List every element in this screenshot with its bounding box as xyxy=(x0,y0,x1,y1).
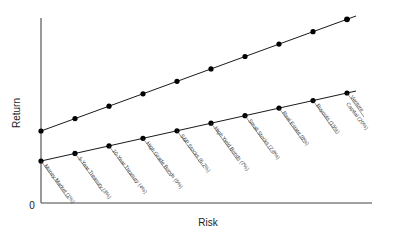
data-point xyxy=(174,128,179,133)
risk-return-chart: Return Risk 0 xyxy=(0,0,399,235)
point-label-buyouts: Buyouts (15%) xyxy=(313,101,341,135)
point-label-text: 5-Year Treasury (3%) xyxy=(77,155,113,200)
point-label-text: Real Estate (8%) xyxy=(281,110,310,146)
series-upper xyxy=(38,16,356,134)
point-labels: Money Market (1%) 5-Year Treasury (3%) 1… xyxy=(41,93,370,204)
data-point xyxy=(310,29,315,34)
upper-trend-line xyxy=(41,16,356,131)
data-point xyxy=(72,116,77,121)
point-label-sp-stocks: S&P Stocks (6-7%) xyxy=(177,131,212,174)
point-label-high-yield-bonds: High Yield Bonds (7%) xyxy=(211,123,251,172)
point-label-text: High Grade Bonds (5%) xyxy=(145,140,184,189)
point-label-venture-capital: Venture Capital (20%) xyxy=(345,93,370,131)
series-lower: Money Market (1%) 5-Year Treasury (3%) 1… xyxy=(38,90,369,204)
point-label-text: Buyouts (15%) xyxy=(315,103,341,135)
data-point xyxy=(276,42,281,47)
point-label-5yr-treasury: 5-Year Treasury (3%) xyxy=(75,153,113,200)
data-point xyxy=(208,66,213,71)
data-point xyxy=(242,54,247,59)
origin-label: 0 xyxy=(29,200,35,211)
point-label-text: High Yield Bonds (7%) xyxy=(213,125,250,172)
point-label-text: S&P Stocks (6-7%) xyxy=(179,133,212,174)
point-label-small-stocks: Small Stocks (7-8%) xyxy=(245,116,282,161)
point-label-10yr-treasury: 10-Year Treasury (4%) xyxy=(109,146,149,195)
point-label-money-market: Money Market (1%) xyxy=(41,161,76,204)
point-label-text: 10-Year Treasury (4%) xyxy=(111,148,148,195)
point-label-text: Small Stocks (7-8%) xyxy=(247,118,281,161)
data-point xyxy=(140,91,145,96)
data-point xyxy=(38,128,43,133)
data-point xyxy=(106,104,111,109)
point-label-text: Money Market (1%) xyxy=(43,163,76,204)
data-point xyxy=(174,79,179,84)
data-point xyxy=(344,16,350,22)
point-label-real-estate: Real Estate (8%) xyxy=(279,108,311,146)
data-point xyxy=(140,136,145,141)
chart-canvas: Return Risk 0 xyxy=(0,0,399,235)
point-label-high-grade-bonds: High Grade Bonds (5%) xyxy=(143,138,185,189)
y-axis-title: Return xyxy=(11,98,22,128)
x-axis-title: Risk xyxy=(198,217,218,228)
